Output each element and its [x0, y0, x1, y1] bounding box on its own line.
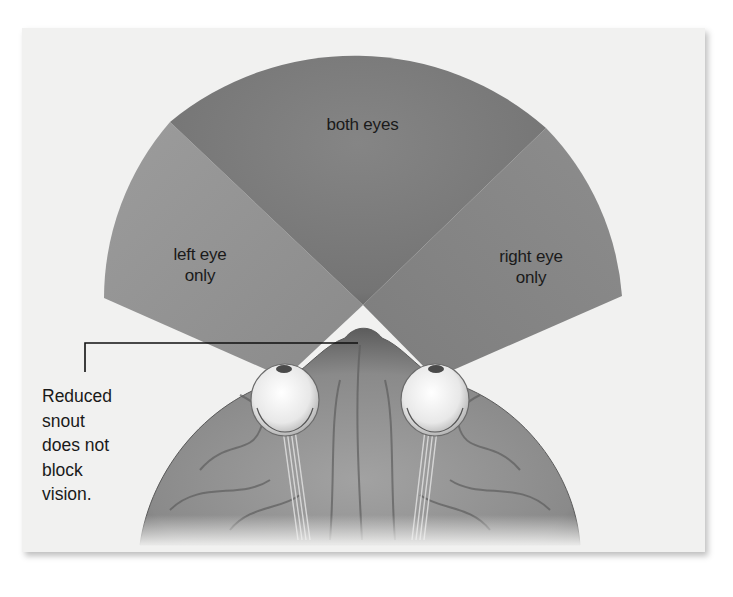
label-right-eye-only: right eye only: [476, 246, 586, 288]
label-both-eyes: both eyes: [300, 114, 425, 135]
visual-field-diagram: [0, 0, 733, 597]
label-left-eye-line1: left eye: [150, 244, 250, 265]
head-fade: [130, 515, 590, 547]
label-left-eye-line2: only: [150, 265, 250, 286]
right-eyeball: [401, 364, 469, 436]
label-right-eye-line2: only: [476, 267, 586, 288]
label-right-eye-line1: right eye: [476, 246, 586, 267]
label-left-eye-only: left eye only: [150, 244, 250, 286]
left-eyeball: [251, 364, 319, 436]
callout-snout-text: Reduced snout does not block vision.: [42, 384, 112, 507]
